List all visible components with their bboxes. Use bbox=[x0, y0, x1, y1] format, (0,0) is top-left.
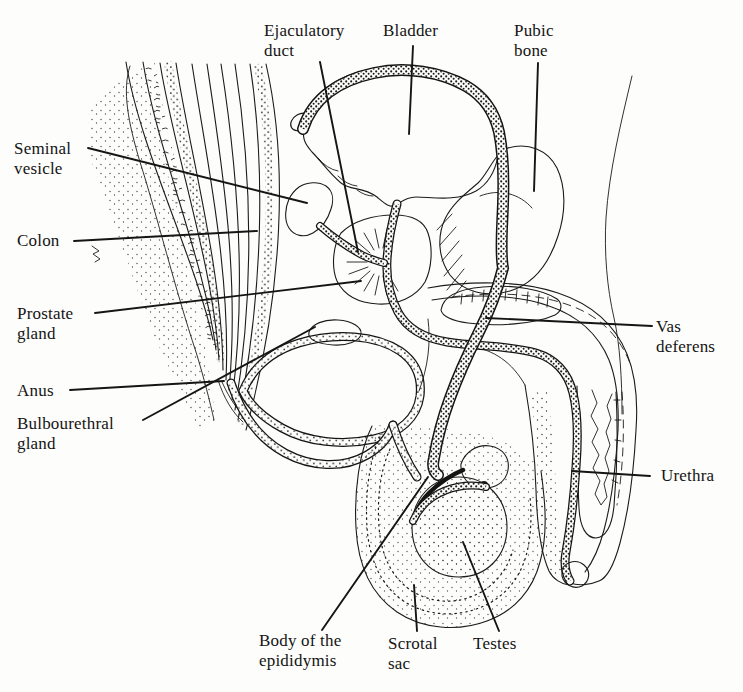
leader-prostate-gland bbox=[95, 281, 361, 313]
scrotum-drawing bbox=[356, 425, 546, 628]
label-testes: Testes bbox=[473, 634, 516, 654]
label-seminal-vesicle: Seminal vesicle bbox=[14, 139, 98, 180]
label-scrotal-sac: Scrotal sac bbox=[388, 634, 460, 675]
label-ejaculatory-duct: Ejaculatory duct bbox=[264, 21, 376, 62]
label-anus: Anus bbox=[17, 381, 54, 401]
label-prostate-gland: Prostate gland bbox=[17, 304, 109, 345]
leader-bladder bbox=[409, 46, 413, 134]
leader-urethra bbox=[572, 471, 650, 476]
label-bladder: Bladder bbox=[383, 21, 438, 41]
diagram-artwork bbox=[0, 0, 743, 692]
label-urethra: Urethra bbox=[661, 466, 714, 486]
body-outline bbox=[605, 76, 632, 414]
leader-pubic-bone bbox=[534, 63, 538, 191]
label-vas-deferens: Vas deferens bbox=[656, 317, 742, 358]
label-pubic-bone: Pubic bone bbox=[514, 21, 572, 62]
leader-vas-deferens bbox=[486, 318, 652, 326]
label-colon: Colon bbox=[17, 231, 60, 251]
small-mark bbox=[92, 246, 100, 262]
label-body-of-epididymis: Body of the epididymis bbox=[259, 631, 379, 672]
anatomical-diagram: Ejaculatory duct Bladder Pubic bone Semi… bbox=[0, 0, 743, 692]
label-bulbourethral-gland: Bulbourethral gland bbox=[17, 414, 157, 455]
